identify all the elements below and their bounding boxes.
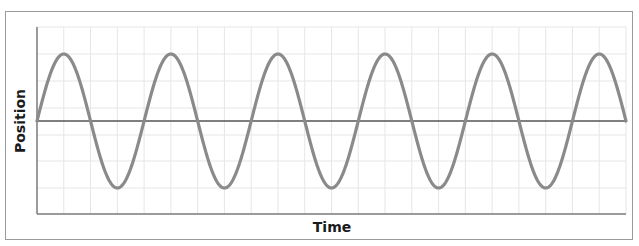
x-axis-label: Time <box>313 219 351 235</box>
plot-area <box>0 0 639 246</box>
y-axis-label: Position <box>12 89 28 153</box>
